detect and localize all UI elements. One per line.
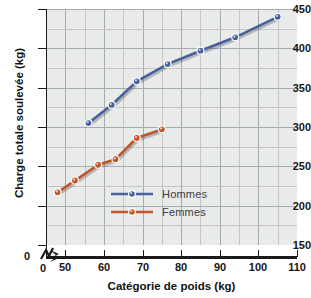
data-point [133, 135, 140, 142]
x-axis-tick [104, 250, 105, 257]
x-axis-tick-label: 80 [166, 262, 196, 273]
data-point-highlight [96, 163, 98, 165]
y-axis-tick-label: 400 [275, 43, 311, 54]
data-point-highlight [199, 49, 201, 51]
x-axis-tick-label: 60 [89, 262, 119, 273]
data-point [54, 189, 61, 196]
y-axis-tick [38, 127, 46, 128]
data-point-highlight [276, 15, 278, 17]
x-axis-tick-label: 110 [282, 262, 311, 273]
data-point-highlight [110, 103, 112, 105]
x-axis-tick [220, 250, 221, 257]
data-point [133, 78, 140, 85]
data-point [232, 34, 239, 41]
y-axis-tick-label: 250 [275, 161, 311, 172]
data-point-highlight [135, 136, 137, 138]
data-point-highlight [166, 62, 168, 64]
legend-swatch [109, 187, 155, 201]
data-point [108, 101, 115, 108]
data-point [85, 120, 92, 127]
data-point [71, 177, 78, 184]
data-point [112, 156, 119, 163]
data-point [197, 47, 204, 54]
data-point-highlight [87, 121, 89, 123]
data-point [164, 61, 171, 68]
y-axis-tick [38, 245, 46, 246]
legend-label: Hommes [162, 188, 207, 200]
chart-figure: 450400350300250200150 5060708090100110 0… [0, 0, 311, 298]
y-axis-line [46, 9, 47, 257]
y-axis-origin-label: 0 [24, 250, 30, 262]
y-axis-tick-label: 150 [275, 240, 311, 251]
x-axis-line [46, 256, 297, 259]
data-point-highlight [56, 190, 58, 192]
chart-legend: HommesFemmes [109, 185, 207, 221]
x-axis-tick [143, 250, 144, 257]
y-axis-tick-label: 200 [275, 201, 311, 212]
y-axis-tick [38, 206, 46, 207]
y-axis-tick-label: 300 [275, 122, 311, 133]
x-axis-tick [297, 250, 298, 257]
legend-label: Femmes [162, 206, 206, 218]
y-axis-tick [38, 48, 46, 49]
y-axis-title: Charge totale soulevée (kg) [13, 18, 25, 228]
legend-item-hommes: Hommes [109, 185, 207, 203]
series-hommes [85, 13, 281, 126]
x-axis-origin-label: 0 [40, 262, 46, 274]
legend-item-femmes: Femmes [109, 203, 207, 221]
y-axis-tick [38, 166, 46, 167]
x-axis-break-icon [48, 248, 66, 264]
data-point-highlight [114, 157, 116, 159]
x-axis-tick-label: 100 [243, 262, 273, 273]
data-point [95, 161, 102, 168]
x-axis-tick-label: 70 [128, 262, 158, 273]
y-axis-tick-label: 350 [275, 83, 311, 94]
data-point-highlight [160, 127, 162, 129]
x-axis-tick-label: 90 [205, 262, 235, 273]
data-point [158, 126, 165, 133]
y-axis-tick [38, 88, 46, 89]
y-axis-tick [38, 9, 46, 10]
data-point-highlight [73, 178, 75, 180]
x-axis-tick [181, 250, 182, 257]
y-axis-tick-label: 450 [275, 4, 311, 15]
x-axis-title: Catégorie de poids (kg) [46, 280, 297, 292]
x-axis-tick [258, 250, 259, 257]
series-line-shadow [90, 18, 279, 124]
data-point-highlight [135, 79, 137, 81]
legend-swatch [109, 205, 155, 219]
data-point-highlight [233, 35, 235, 37]
